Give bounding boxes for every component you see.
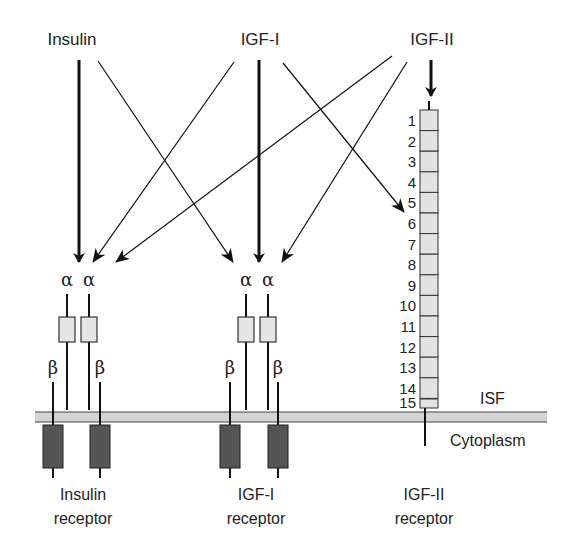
igf2-repeat-segment [420,172,438,193]
segment-number: 15 [399,394,416,411]
insulin-receptor: ααββInsulinreceptor [43,269,113,527]
segment-number: 7 [408,236,416,253]
igf2-repeat-segment [420,213,438,234]
igf2-repeat-segment [420,378,438,399]
ligand-insulin: Insulin [47,30,96,49]
igf2-repeat-segment [420,316,438,337]
beta-subunit-label: β [48,357,58,378]
binding-arrows [79,56,431,262]
segment-number: 6 [408,215,416,232]
arrow-igf2-to-insulin-receptor [116,56,392,262]
segment-number: 11 [400,318,416,335]
igf-receptor-diagram: ISF Cytoplasm InsulinIGF-IIGF-II ααββIns… [0,0,575,557]
igf2-receptor-name-line2: receptor [395,510,454,527]
igf2-receptor: 123456789101112131415IGF-IIreceptor [395,101,454,527]
igf2-repeat-segment [420,131,438,152]
segment-number: 4 [408,174,416,191]
igf2-repeat-segment [420,234,438,255]
igf2-receptor-name: IGF-II [404,486,445,503]
beta-subunit-label: β [95,357,105,378]
alpha-subunit-label: α [83,269,95,290]
insulin-receptor-name-line2: receptor [54,510,113,527]
arrow-igf1-to-igf2-receptor [283,63,404,212]
diagram-canvas: ISF Cytoplasm InsulinIGF-IIGF-II ααββIns… [0,0,575,557]
igf2-repeat-segment [420,337,438,358]
ligand-igf2: IGF-II [410,30,453,49]
alpha-subunit [238,317,254,342]
membrane-bilayer [35,412,547,422]
igf2-repeat-segment [420,151,438,172]
igf2-repeat-segment [420,275,438,296]
alpha-subunit-label: α [240,269,252,290]
alpha-subunit-label: α [61,269,73,290]
beta-subunit-kinase [220,425,240,468]
igf1-receptor-name-line2: receptor [227,510,286,527]
segment-number: 2 [408,133,416,150]
segment-number: 8 [408,256,416,273]
segment-number: 9 [408,277,416,294]
alpha-subunit [260,317,276,342]
beta-subunit-kinase [90,425,110,468]
igf1-receptor: ααββIGF-Ireceptor [220,269,288,527]
segment-number: 12 [399,339,416,356]
cytoplasm-label: Cytoplasm [450,432,526,449]
segment-number: 10 [399,297,416,314]
alpha-subunit-label: α [262,269,274,290]
receptors: ααββInsulinreceptorααββIGF-Ireceptor [43,269,288,527]
igf2-repeat-segment [420,399,438,408]
igf2-repeat-segment [420,254,438,275]
segment-number: 13 [399,359,416,376]
cell-membrane: ISF Cytoplasm [35,390,547,449]
segment-number: 3 [408,153,416,170]
beta-subunit-kinase [268,425,288,468]
beta-subunit-kinase [43,425,63,468]
beta-subunit-label: β [273,357,283,378]
segment-number: 1 [408,112,416,129]
insulin-receptor-name: Insulin [60,486,106,503]
igf1-receptor-name: IGF-I [238,486,274,503]
isf-label: ISF [480,390,505,407]
ligand-labels: InsulinIGF-IIGF-II [47,30,453,49]
ligand-igf1: IGF-I [241,30,280,49]
igf2-repeat-segment [420,192,438,213]
igf2-repeat-segment [420,357,438,378]
igf2-repeat-segment [420,110,438,131]
segment-number: 5 [408,194,416,211]
alpha-subunit [59,317,75,342]
igf2-repeat-segment [420,295,438,316]
beta-subunit-label: β [225,357,235,378]
alpha-subunit [81,317,97,342]
